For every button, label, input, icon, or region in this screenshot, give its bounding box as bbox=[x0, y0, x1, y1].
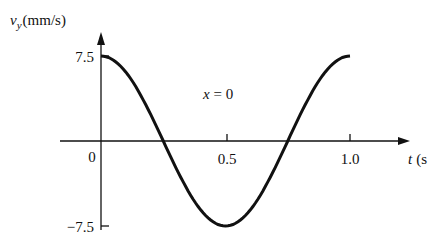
x-tick-label-1.0: 1.0 bbox=[341, 151, 360, 167]
x-tick-label-0: 0 bbox=[88, 149, 96, 165]
y-axis-arrow-icon bbox=[97, 32, 105, 45]
velocity-time-chart: vy(mm/s) 7.5 −7.5 0 0.5 1.0 t(s x = 0 bbox=[0, 0, 435, 232]
position-annotation: x = 0 bbox=[202, 86, 233, 102]
y-tick-label-neg-7.5: −7.5 bbox=[67, 219, 94, 232]
x-axis-arrow-icon bbox=[398, 137, 410, 145]
y-tick-label-7.5: 7.5 bbox=[75, 49, 94, 65]
x-tick-label-0.5: 0.5 bbox=[218, 151, 237, 167]
y-axis-label: vy(mm/s) bbox=[10, 12, 66, 31]
x-axis-label: t(s bbox=[408, 151, 427, 168]
